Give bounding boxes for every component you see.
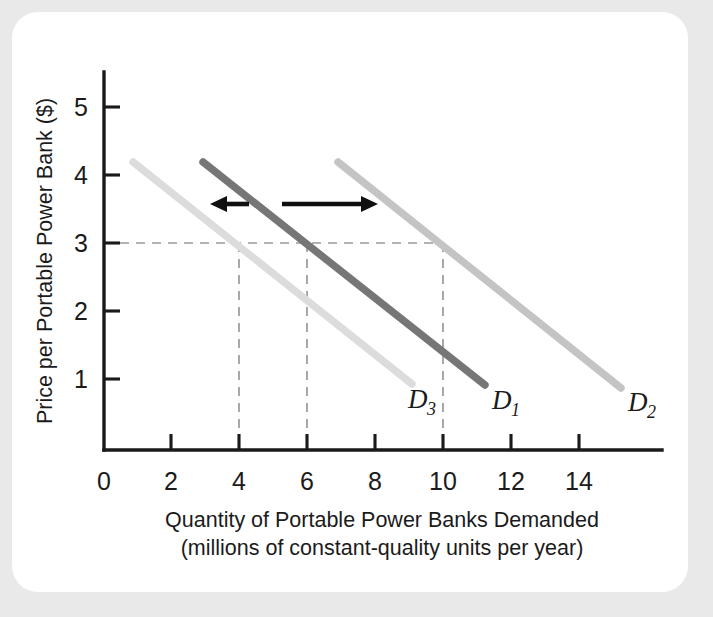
x-axis-tick-labels: 0 2 4 6 8 10 12 14 [97,467,593,495]
x-tick-label-2: 2 [164,467,178,495]
shift-annotation-arrows [210,196,378,212]
demand-curve-D3 [133,162,412,384]
increase-arrow-head [361,196,378,212]
figure-root: 5 4 3 2 1 0 2 4 6 8 [0,0,713,617]
x-tick-label-8: 8 [368,467,382,495]
x-axis-ticks [171,434,579,450]
demand-curve-chart: 5 4 3 2 1 0 2 4 6 8 [12,12,688,592]
x-tick-label-0: 0 [97,467,111,495]
y-tick-label-4: 4 [74,161,88,189]
axes [104,72,662,450]
y-axis-title: Price per Portable Power Bank ($) [33,98,57,424]
curve-label-D3-subscript: 3 [426,399,436,419]
y-axis-tick-labels: 5 4 3 2 1 [74,93,88,393]
x-axis-title-line-1: Quantity of Portable Power Banks Demande… [165,508,599,532]
x-tick-label-6: 6 [300,467,314,495]
curve-label-D2-subscript: 2 [647,402,656,422]
y-tick-label-3: 3 [74,229,88,257]
demand-curves [133,162,621,388]
x-tick-label-12: 12 [497,467,525,495]
y-tick-label-2: 2 [74,297,88,325]
curve-label-D3-letter: D [407,384,428,414]
x-tick-label-14: 14 [565,467,593,495]
curve-label-D1-subscript: 1 [511,400,520,420]
y-tick-label-1: 1 [74,365,88,393]
y-tick-label-5: 5 [74,93,88,121]
y-axis-ticks [104,107,120,379]
curve-label-D1-letter: D [491,385,512,415]
x-tick-label-10: 10 [429,467,457,495]
curve-label-D2-letter: D [627,387,648,417]
x-axis-title-line-2: (millions of constant-quality units per … [181,536,584,560]
demand-curve-D1 [203,162,485,385]
curve-label-D2: D 2 [627,387,656,422]
decrease-arrow-head [210,196,227,212]
curve-label-D1: D 1 [491,385,520,420]
increase-demand-right-arrow [282,196,378,212]
demand-curve-D2 [338,162,621,388]
x-tick-label-4: 4 [232,467,246,495]
chart-panel: 5 4 3 2 1 0 2 4 6 8 [12,12,688,592]
curve-label-D3: D 3 [407,384,436,419]
